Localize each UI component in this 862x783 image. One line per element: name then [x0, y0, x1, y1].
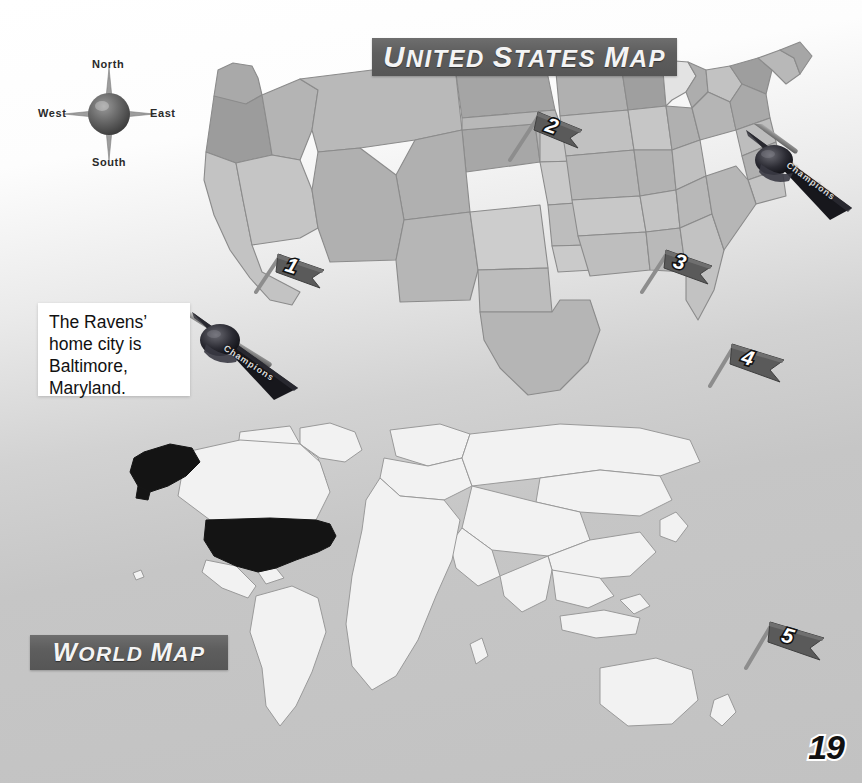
us-map-title: UNITED STATES MAP: [383, 40, 666, 74]
region-africa: [346, 478, 460, 690]
compass-label-west: West: [38, 107, 66, 119]
compass-label-south: South: [92, 156, 126, 168]
pennant-baltimore-graphic: [176, 296, 316, 408]
map-flag-4-graphic: [708, 330, 798, 400]
pennant-northeast-graphic: [734, 124, 862, 232]
map-flag-3-graphic: [640, 234, 724, 300]
region-south-america: [250, 586, 326, 726]
region-japan: [660, 512, 688, 542]
callout-text: The Ravens’ home city is Baltimore, Mary…: [38, 303, 190, 399]
region-madagascar: [470, 638, 488, 664]
region-india: [500, 556, 552, 612]
compass-label-north: North: [92, 58, 124, 70]
world-map-title: WORLD MAP: [53, 638, 206, 667]
compass-label-east: East: [150, 107, 176, 119]
map-flag-2-graphic: [506, 100, 590, 168]
map-flag-1-graphic: [254, 238, 334, 302]
compass-rose: North South West East: [34, 52, 184, 176]
map-flag-5-graphic: [744, 606, 836, 680]
region-philippines: [620, 594, 650, 614]
pennant-baltimore: Champions: [176, 296, 316, 412]
page-number: 19: [808, 728, 844, 767]
region-australia: [600, 658, 698, 726]
region-new-zealand: [710, 694, 736, 726]
page-canvas: North South West East Champions: [0, 0, 862, 783]
callout-textbox: The Ravens’ home city is Baltimore, Mary…: [38, 303, 190, 396]
pennant-northeast: Champions: [734, 124, 862, 236]
us-map-title-banner: UNITED STATES MAP: [372, 38, 677, 76]
region-hawaii: [133, 570, 144, 580]
region-canada: [178, 440, 330, 528]
region-indonesia: [560, 610, 640, 638]
world-map-title-banner: WORLD MAP: [30, 635, 228, 670]
